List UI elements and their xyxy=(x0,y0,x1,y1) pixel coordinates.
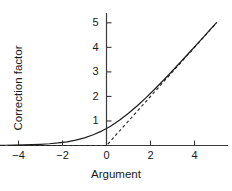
axes-group xyxy=(8,13,228,146)
x-axis-ticks xyxy=(19,141,195,146)
plot-area xyxy=(0,0,232,191)
x-axis-title: Argument xyxy=(0,168,232,180)
y-tick-label: 4 xyxy=(75,42,99,53)
y-tick-label: 5 xyxy=(75,17,99,28)
series-correction-factor-curve xyxy=(0,23,217,146)
y-axis-ticks xyxy=(107,23,112,121)
data-series-group xyxy=(0,23,217,146)
x-tick-label: 0 xyxy=(87,150,127,161)
x-tick-label: 4 xyxy=(175,150,215,161)
x-tick-label: 2 xyxy=(131,150,171,161)
chart-figure: −4−2024 12345 Argument Correction factor xyxy=(0,0,232,191)
y-tick-label: 1 xyxy=(75,115,99,126)
y-tick-label: 2 xyxy=(75,91,99,102)
x-tick-label: −4 xyxy=(0,150,39,161)
y-axis-title: Correction factor xyxy=(12,43,24,133)
y-tick-label: 3 xyxy=(75,66,99,77)
x-tick-label: −2 xyxy=(43,150,83,161)
